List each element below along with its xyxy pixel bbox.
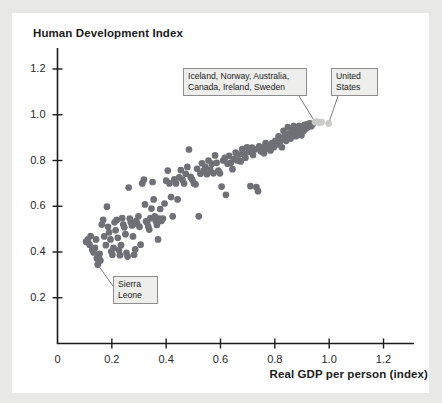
- data-point: [146, 226, 153, 233]
- data-point: [218, 183, 225, 190]
- data-point: [247, 183, 254, 190]
- data-point: [109, 251, 116, 258]
- x-tick-label: 0.4: [153, 353, 179, 365]
- x-tick-label: 0.8: [262, 353, 288, 365]
- data-point: [141, 176, 148, 183]
- y-tick-label: 0.2: [20, 291, 46, 303]
- x-tick-label: 1.0: [316, 353, 342, 365]
- scatter-plot: [0, 0, 442, 403]
- data-point: [136, 223, 143, 230]
- data-point: [173, 180, 180, 187]
- data-point: [119, 215, 126, 222]
- data-point: [97, 257, 104, 264]
- data-point: [96, 250, 103, 257]
- data-point: [255, 188, 262, 195]
- data-point: [213, 159, 220, 166]
- data-point: [217, 170, 224, 177]
- data-point: [124, 253, 131, 260]
- data-point: [160, 215, 167, 222]
- data-point: [169, 213, 176, 220]
- data-point: [142, 201, 149, 208]
- y-tick-label: 0.6: [20, 199, 46, 211]
- data-point: [112, 227, 119, 234]
- data-point: [135, 213, 142, 220]
- data-point: [137, 241, 144, 248]
- data-point: [184, 164, 191, 171]
- y-tick-label: 1.0: [20, 108, 46, 120]
- leader-line-top-countries: [299, 96, 315, 122]
- data-point: [130, 233, 137, 240]
- data-point: [186, 146, 193, 153]
- x-tick-label: 1.2: [371, 353, 397, 365]
- data-point: [164, 167, 171, 174]
- leader-line-united-states: [329, 96, 338, 123]
- y-tick-label: 0.8: [20, 154, 46, 166]
- data-point: [318, 119, 325, 126]
- data-point: [107, 236, 114, 243]
- data-point: [212, 152, 219, 159]
- data-point: [149, 179, 156, 186]
- data-point: [195, 213, 202, 220]
- annotation-box-top-countries: Iceland, Norway, Australia, Canada, Irel…: [183, 68, 307, 96]
- data-point: [161, 200, 168, 207]
- x-tick-label: 0: [45, 353, 71, 365]
- data-point: [118, 242, 125, 249]
- data-point: [106, 229, 113, 236]
- data-point: [122, 231, 129, 238]
- data-point: [125, 184, 132, 191]
- x-tick-label: 0.2: [99, 353, 125, 365]
- data-point: [192, 181, 199, 188]
- y-tick-label: 0.4: [20, 245, 46, 257]
- data-point: [168, 194, 175, 201]
- data-point: [174, 196, 181, 203]
- annotation-box-united-states: United States: [331, 68, 378, 96]
- data-point: [242, 154, 249, 161]
- data-point: [132, 246, 139, 253]
- annotation-box-sierra-leone: Sierra Leone: [113, 276, 158, 304]
- data-point: [325, 120, 332, 127]
- data-point: [181, 180, 188, 187]
- data-point: [229, 166, 236, 173]
- data-point: [148, 205, 155, 212]
- data-point: [223, 191, 230, 198]
- data-point: [155, 236, 162, 243]
- data-point: [100, 217, 107, 224]
- data-point: [114, 234, 121, 241]
- data-point: [121, 224, 128, 231]
- data-point: [104, 203, 111, 210]
- data-point: [150, 196, 157, 203]
- y-tick-label: 1.2: [20, 62, 46, 74]
- leader-line-sierra-leone: [98, 265, 113, 286]
- data-points-layer: [83, 118, 332, 268]
- x-tick-label: 0.6: [208, 353, 234, 365]
- data-point: [117, 252, 124, 259]
- data-point: [93, 236, 100, 243]
- data-point: [103, 242, 110, 249]
- data-point: [157, 206, 164, 213]
- chart-figure: Human Development Index Real GDP per per…: [0, 0, 442, 403]
- data-point: [279, 144, 286, 151]
- data-point: [92, 245, 99, 252]
